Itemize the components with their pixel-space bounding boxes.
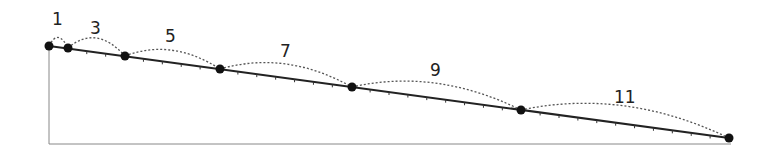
dot-6 (725, 134, 734, 143)
dot-1 (64, 44, 73, 53)
label-9: 9 (430, 60, 441, 80)
label-1: 1 (52, 9, 63, 29)
dot-3 (216, 65, 225, 74)
label-11: 11 (614, 87, 636, 107)
dot-4 (348, 83, 357, 92)
dot-5 (517, 106, 526, 115)
label-3: 3 (90, 18, 101, 38)
label-7: 7 (280, 41, 291, 61)
label-5: 5 (165, 26, 176, 46)
dot-0 (45, 42, 54, 51)
dot-2 (121, 52, 130, 61)
inclined-plane-diagram: 1 3 5 7 9 11 (0, 0, 782, 159)
